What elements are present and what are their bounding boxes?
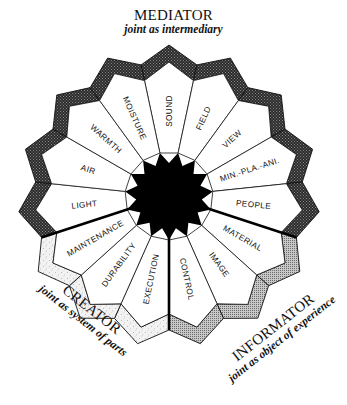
joint-wheel-diagram: SOUNDFIELDVIEWMIN.-PLA.-ANI.PEOPLEMATERI… — [0, 0, 347, 405]
segment-label: SOUND — [165, 95, 174, 127]
mediator-zone-title: MEDIATOR joint as intermediary — [0, 7, 347, 36]
mediator-subtitle: joint as intermediary — [0, 23, 347, 36]
mediator-title: MEDIATOR — [0, 7, 347, 23]
